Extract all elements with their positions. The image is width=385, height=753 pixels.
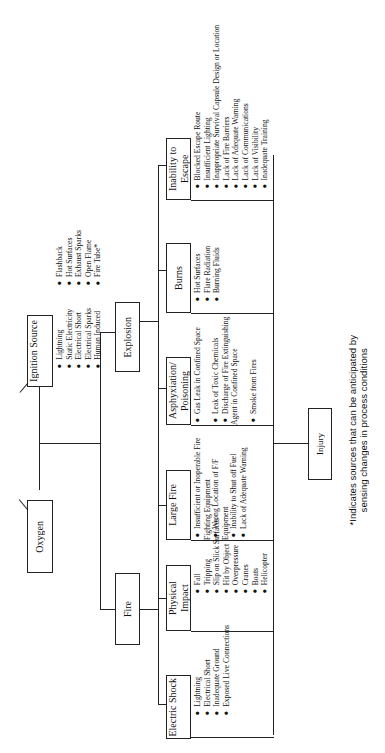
connector-category-spine (158, 165, 159, 705)
category-electric-shock-box: Electric Shock (166, 675, 191, 739)
oxygen-box: Oxygen (27, 500, 53, 573)
connector-explosion-out (140, 321, 158, 322)
list-item: ● Human Induced (93, 308, 103, 371)
footnote: *Indicates sources that can be anticipat… (347, 335, 369, 570)
list-item: ● Leak of Toxic Chemicals (211, 313, 221, 425)
list-item: ● Lack of Adequate Warning (231, 25, 241, 191)
list-item: ● Hot Surfaces (65, 230, 75, 288)
category-label: Asphyxiation/ Poisoning (167, 358, 191, 424)
asphyxiation-items: ● Gas Leak in Confined Space ● Leak of T… (193, 313, 263, 425)
stub-burns (158, 270, 166, 271)
connector-to-fire (100, 609, 116, 610)
list-item: ● Fire Tube* (93, 230, 103, 288)
injury-label: Injury (314, 433, 326, 455)
electric-shock-items: ● Lightning ● Electrical Short ● Inadequ… (193, 625, 231, 737)
inability-column-right (273, 200, 274, 210)
inability-column (191, 200, 274, 201)
category-asphyxiation-box: Asphyxiation/ Poisoning (166, 357, 191, 425)
ignition-source-box: Ignition Source (27, 315, 53, 387)
list-item: ● Lack of Communications (241, 25, 251, 191)
footnote-line-2: sensing changes in process conditions (358, 335, 369, 525)
stub-large-fire (158, 505, 166, 506)
inability-to-escape-items: ● Blocked Escape Route ● Insufficient Li… (193, 25, 270, 200)
stub-inability (158, 165, 166, 166)
explosion-box: Explosion (115, 302, 140, 372)
list-item: ● Flare Radiation (203, 246, 213, 304)
category-burns-box: Burns (166, 243, 191, 313)
connector-oxygen-ignition (39, 385, 40, 490)
connector-to-injury (273, 443, 309, 444)
list-item: ● Insufficient or Inoperable Fire Fighti… (193, 425, 211, 540)
list-item: ● Open Flame (84, 230, 94, 288)
physical-impact-column (191, 631, 274, 632)
list-item: ● Gas Leak in Confined Space (193, 313, 211, 425)
explosion-label: Explosion (122, 317, 134, 358)
stub-physical (158, 598, 166, 599)
category-label: Large Fire (167, 484, 190, 526)
oxygen-label: Oxygen (34, 521, 46, 553)
connector-fire-out (140, 609, 158, 610)
list-item: ● Wrong Location of F/F Equipment (211, 425, 229, 540)
category-inability-to-escape-box: Inability to Escape (166, 138, 191, 200)
stub-asphyxiation (158, 388, 166, 389)
injury-box: Injury (308, 408, 332, 480)
list-item: ● Exposed Live Connections (222, 625, 232, 718)
asphyxiation-column (191, 425, 274, 426)
list-item: ● Lightning (55, 308, 65, 371)
list-item: ● Static Electricity (65, 308, 75, 371)
ignition-source-label: Ignition Source (28, 320, 52, 382)
large-fire-column (191, 540, 274, 541)
list-item: ● Flashback (55, 230, 65, 288)
list-item: ● Inability to Shut off Fuel (229, 425, 239, 540)
list-item: ● Discharge of Fire Extinguishing Agent … (221, 313, 249, 425)
list-item: ● Electrical Short (203, 625, 213, 718)
footnote-line-1: *Indicates sources that can be anticipat… (347, 335, 358, 525)
category-label: Inability to Escape (167, 139, 191, 199)
fire-label: Fire (122, 601, 134, 617)
ignition-items-a: ● Lightning ● Static Electricity ● Elect… (55, 308, 103, 385)
list-item: ● Electrical Sparks (84, 308, 94, 371)
category-large-fire-box: Large Fire (166, 470, 191, 540)
list-item: ● Hot Surfaces (193, 246, 203, 304)
list-item: ● Lack of Fire Barriers (222, 25, 232, 191)
list-item: ● Lack of Adequate Warning (239, 425, 257, 540)
list-item: ● Lightning (193, 625, 203, 718)
category-label: Burns (173, 266, 185, 290)
burns-column (191, 313, 274, 314)
list-item: ● Burning Fluids (212, 246, 222, 304)
ignition-items-b: ● Flashback ● Hot Surfaces ● Exhaust Spa… (55, 230, 103, 300)
category-label: Physical Impact (167, 566, 191, 630)
large-fire-items: ● Insufficient or Inoperable Fire Fighti… (193, 425, 273, 540)
list-item: ● Inadequate Ground (212, 625, 222, 718)
list-item: ● Blocked Escape Route (193, 25, 203, 191)
list-item: ● Inadequate Training (260, 25, 270, 191)
list-item: ● Smoke from Fires (249, 313, 259, 425)
connector-spine-horizontal (39, 443, 100, 444)
stub-electric (158, 704, 166, 705)
list-item: ● Exhaust Sparks (74, 230, 84, 288)
list-item: ● Insufficient Lighting (203, 25, 213, 191)
list-item: ● Inappropriate Survival Capsule Design … (212, 25, 222, 191)
connector-bottom-bus (273, 155, 274, 735)
category-physical-impact-box: Physical Impact (166, 565, 191, 631)
burns-items: ● Hot Surfaces ● Flare Radiation ● Burni… (193, 246, 222, 311)
list-item: ● Lack of Visibility (251, 25, 261, 191)
list-item: ● Electrical Short (74, 308, 84, 371)
category-label: Electric Shock (167, 678, 190, 737)
fire-box: Fire (115, 573, 140, 645)
electric-shock-column (191, 737, 274, 738)
